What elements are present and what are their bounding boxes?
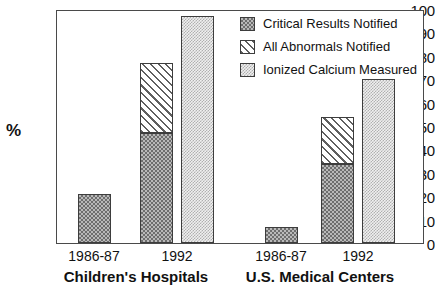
x-tick-label-childrens-1986-87: 1986-87 (68, 248, 119, 264)
x-tick-label-usmc-1992: 1992 (342, 248, 373, 264)
bar-childrens-1992-abnormals (140, 63, 173, 133)
legend-swatch-critical-icon (240, 17, 255, 31)
group-label-childrens-hospitals: Children's Hospitals (64, 268, 208, 285)
legend-item-all-abnormals: All Abnormals Notified (240, 37, 417, 56)
legend-item-critical-results: Critical Results Notified (240, 14, 417, 33)
bar-childrens-1992-ionized (181, 16, 214, 243)
bar-usmc-1986-87-critical (265, 227, 298, 243)
legend-item-ionized-calcium: Ionized Calcium Measured (240, 60, 417, 79)
bar-childrens-1986-87-critical (78, 194, 111, 243)
legend-label-critical: Critical Results Notified (263, 17, 397, 30)
legend: Critical Results Notified All Abnormals … (240, 14, 417, 83)
legend-label-abnormals: All Abnormals Notified (263, 40, 390, 53)
legend-swatch-abnormals-icon (240, 40, 255, 54)
bar-usmc-1992-ionized (362, 79, 395, 243)
x-tick-label-childrens-1992: 1992 (161, 248, 192, 264)
bar-usmc-1992-abnormals (321, 117, 354, 164)
bar-usmc-1992-critical (321, 164, 354, 244)
legend-label-ionized: Ionized Calcium Measured (263, 63, 417, 76)
bar-childrens-1992-critical (140, 133, 173, 243)
group-label-us-medical-centers: U.S. Medical Centers (246, 268, 394, 285)
x-tick-label-usmc-1986-87: 1986-87 (255, 248, 306, 264)
legend-swatch-ionized-icon (240, 63, 255, 77)
y-axis-title: % (6, 121, 21, 141)
bar-chart: % 100 90 80 70 60 50 40 30 20 10 0 (0, 0, 435, 292)
